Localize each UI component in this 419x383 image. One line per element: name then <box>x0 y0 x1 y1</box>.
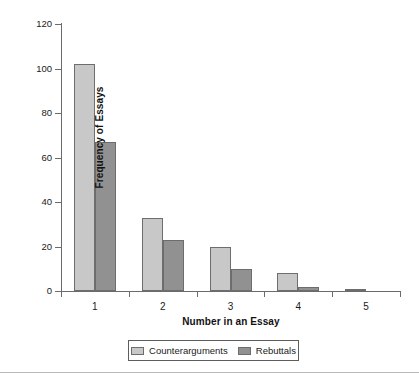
chart-legend: CounterargumentsRebuttals <box>128 340 299 361</box>
x-tick-label-2: 2 <box>143 301 183 312</box>
y-tick-label-80: 80 <box>12 108 52 117</box>
bar-rebuttals-3 <box>231 269 252 291</box>
x-axis-title: Number in an Essay <box>61 316 401 327</box>
x-tick-5 <box>332 291 333 297</box>
bar-chart-figure: 020406080100120 12345 Frequency of Essay… <box>0 0 419 383</box>
x-tick-label-3: 3 <box>211 301 251 312</box>
x-tick-2 <box>129 291 130 297</box>
y-tick-label-120: 120 <box>12 19 52 28</box>
legend-swatch-icon <box>238 347 251 355</box>
bar-counterarguments-4 <box>277 273 298 291</box>
bar-rebuttals-4 <box>298 287 319 291</box>
plot-area: Frequency of Essays <box>61 24 400 291</box>
bar-rebuttals-2 <box>163 240 184 291</box>
y-axis-title: Frequency of Essays <box>94 63 105 213</box>
y-tick-label-0: 0 <box>12 286 52 295</box>
y-tick-label-20: 20 <box>12 242 52 251</box>
x-axis-line <box>61 291 401 292</box>
legend-label: Counterarguments <box>149 345 228 356</box>
legend-entry-counterarguments: Counterarguments <box>131 345 228 356</box>
bar-counterarguments-2 <box>142 218 163 291</box>
x-tick-4 <box>264 291 265 297</box>
x-tick-label-4: 4 <box>278 301 318 312</box>
legend-label: Rebuttals <box>256 345 296 356</box>
bar-counterarguments-5 <box>345 289 366 291</box>
bar-counterarguments-1 <box>74 64 95 291</box>
x-tick-end <box>400 291 401 297</box>
bottom-divider <box>0 372 419 373</box>
y-tick-label-40: 40 <box>12 197 52 206</box>
x-tick-label-5: 5 <box>346 301 386 312</box>
bars-layer <box>61 24 400 291</box>
x-tick-3 <box>197 291 198 297</box>
x-tick-1 <box>61 291 62 297</box>
y-tick-label-100: 100 <box>12 64 52 73</box>
x-tick-label-1: 1 <box>75 301 115 312</box>
bar-counterarguments-3 <box>210 247 231 292</box>
legend-swatch-icon <box>131 347 144 355</box>
y-tick-label-60: 60 <box>12 153 52 162</box>
legend-entry-rebuttals: Rebuttals <box>238 345 296 356</box>
